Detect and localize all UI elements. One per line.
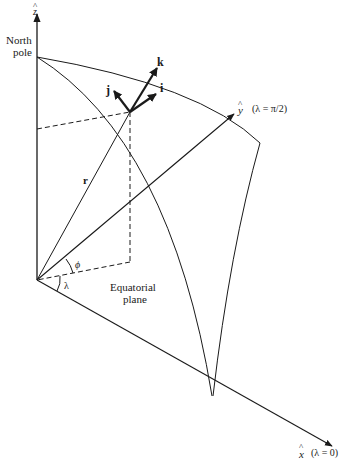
north-pole-label-line1: North [6,34,32,46]
equatorial-plane-label-line1: Equatorial [110,281,156,293]
longitude-angle-label: λ [64,280,69,291]
unit-vector-i [130,94,156,112]
dashed-horizontal [37,112,130,129]
position-vector-label: r [83,174,88,186]
z-axis-label: z [32,6,37,17]
x-axis [37,280,332,446]
longitude-angle-arc [57,276,60,291]
unit-vector-k-label: k [157,55,164,69]
sphere-coordinate-diagram: ^ z North pole k i j ^ y (λ = π/2) r ϕ λ… [0,0,346,461]
meridian-arc-x [37,57,212,396]
unit-vector-k [130,68,157,112]
position-vector-r [37,112,130,280]
dashed-equatorial-projection [37,262,130,280]
latitude-angle-arc [66,259,73,273]
x-axis-label: x [298,448,304,460]
north-pole-label-line2: pole [13,46,32,58]
unit-vector-j [114,91,130,112]
y-axis-label: y [237,104,243,116]
equatorial-plane-label-line2: plane [123,293,147,305]
x-axis-annotation: (λ = 0) [311,447,338,459]
y-axis-annotation: (λ = π/2) [252,103,287,115]
y-axis [37,114,234,280]
latitude-angle-label: ϕ [75,259,80,270]
unit-vector-j-label: j [105,83,110,97]
outer-arc [37,57,260,396]
